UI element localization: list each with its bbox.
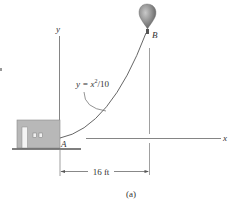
figure-caption: (a) bbox=[126, 189, 136, 199]
y-axis-label: y bbox=[55, 24, 60, 34]
y-axis: y bbox=[55, 24, 60, 120]
door bbox=[22, 127, 28, 148]
equation-rhs: /10 bbox=[98, 79, 110, 89]
arrowhead-right-icon bbox=[145, 170, 150, 173]
edge-mark bbox=[0, 68, 2, 71]
equation-leader-line bbox=[84, 92, 106, 111]
dimension-label: 16 ft bbox=[93, 167, 110, 177]
equation-lhs: y = x bbox=[75, 79, 95, 89]
svg-text:y = x2/10: y = x2/10 bbox=[75, 78, 110, 89]
window bbox=[33, 133, 37, 138]
dimension-line: 16 ft bbox=[61, 167, 150, 177]
point-label-b: B bbox=[152, 30, 158, 40]
window bbox=[39, 133, 43, 138]
x-axis: x bbox=[86, 133, 227, 143]
building bbox=[17, 120, 60, 148]
point-label-a: A bbox=[60, 139, 67, 149]
balloon-icon bbox=[139, 4, 156, 29]
diagram-canvas: y x y = x2/10 bbox=[0, 0, 234, 208]
x-axis-label: x bbox=[222, 133, 227, 143]
arrowhead-left-icon bbox=[61, 170, 66, 173]
balloon-knot bbox=[146, 29, 149, 34]
equation-label: y = x2/10 bbox=[75, 78, 110, 89]
